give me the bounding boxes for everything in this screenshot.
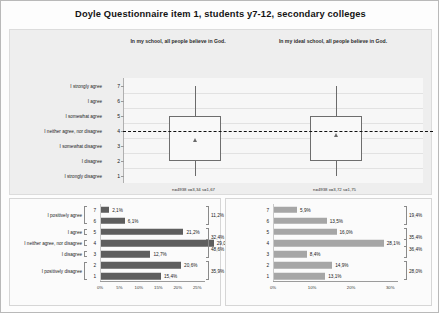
bar-category-3: 3 — [88, 252, 96, 257]
bar-right-x-axis — [273, 281, 398, 282]
boxplot-y-label-1: I strongly disagree — [0, 173, 102, 178]
x-tick-4: 20% — [173, 285, 182, 290]
reference-line-neutral — [123, 131, 433, 132]
boxplot-mean-marker — [193, 138, 197, 142]
group-bracket-2 — [404, 239, 407, 258]
x-tick-2: 10% — [135, 285, 144, 290]
boxplot-stats-2: n=4938 x=3,72 s=1,75 — [313, 187, 356, 192]
bar-left-plot-area — [100, 204, 205, 282]
bar-1 — [274, 273, 325, 280]
boxplot-tick — [121, 161, 124, 162]
boxplot-gridline — [124, 108, 423, 109]
bar-value-6: 13,5% — [330, 218, 343, 223]
bar-value-5: 16,0% — [340, 229, 353, 234]
bar-value-2: 20,6% — [184, 263, 197, 268]
boxplot-subtitle-right: In my ideal school, all people believe i… — [253, 38, 413, 44]
bar-7 — [274, 206, 297, 213]
bar-3 — [274, 251, 307, 258]
row-label-3: I disagree — [62, 252, 82, 257]
group-total-1: 35,4% — [409, 235, 422, 240]
bar-value-7: 5,9% — [300, 207, 311, 212]
x-tick-2: 20% — [347, 285, 356, 290]
x-tick-1: 5% — [116, 285, 122, 290]
boxplot-y-label-3: I somewhat disagree — [0, 143, 102, 148]
bar-5 — [101, 229, 183, 236]
boxplot-mean-marker — [334, 133, 338, 137]
bar-value-5: 21,2% — [186, 229, 199, 234]
boxplot-y-label-5: I somewhat agree — [0, 113, 102, 118]
boxplot-y-value-4: 4 — [112, 128, 120, 134]
boxplot-subtitle-left: In my school, all people believe in God. — [103, 38, 253, 44]
bar-category-7: 7 — [88, 207, 96, 212]
bar-left-x-axis — [100, 281, 205, 282]
bar-category-4: 4 — [261, 241, 269, 246]
x-tick-3: 30% — [386, 285, 395, 290]
boxplot-gridline — [124, 168, 423, 169]
bar-2 — [274, 262, 332, 269]
bar-category-6: 6 — [88, 218, 96, 223]
boxplot-tick — [121, 86, 124, 87]
boxplot-tick — [121, 176, 124, 177]
bar-2 — [101, 262, 181, 269]
bar-category-1: 1 — [88, 274, 96, 279]
bar-category-6: 6 — [261, 218, 269, 223]
boxplot-tick — [121, 146, 124, 147]
bar-right-plot-area — [273, 204, 398, 282]
x-tick-0: 0% — [97, 285, 103, 290]
bar-category-7: 7 — [261, 207, 269, 212]
bar-category-1: 1 — [261, 274, 269, 279]
bar-value-1: 13,1% — [328, 274, 341, 279]
boxplot-tick — [121, 101, 124, 102]
bar-category-4: 4 — [88, 241, 96, 246]
row-label-2: I neither agree, nor disagree — [24, 241, 82, 246]
group-bracket-2 — [206, 239, 209, 258]
bar-value-6: 6,1% — [128, 218, 139, 223]
bar-value-3: 8,4% — [310, 252, 321, 257]
group-total-0: 11,2% — [211, 213, 224, 218]
bar-6 — [101, 217, 125, 224]
group-total-0: 19,4% — [409, 213, 422, 218]
boxplot-panel: In my school, all people believe in God.… — [9, 29, 432, 195]
row-label-0: I positively agree — [48, 213, 82, 218]
bar-value-3: 12,7% — [153, 252, 166, 257]
row-bracket-1 — [84, 229, 87, 236]
group-total-2: 36,4% — [409, 246, 422, 251]
group-total-3: 28,0% — [409, 268, 422, 273]
bar-value-4: 28,1% — [387, 241, 400, 246]
boxplot-gridline — [124, 93, 423, 94]
bar-3 — [101, 251, 150, 258]
boxplot-y-value-2: 2 — [112, 158, 120, 164]
x-tick-0: 0% — [270, 285, 276, 290]
boxplot-y-label-7: I strongly agree — [0, 83, 102, 88]
x-tick-1: 10% — [308, 285, 317, 290]
bar-chart-right: 5,9%713,5%616,0%528,1%48,4%314,9%213,1%1… — [225, 198, 432, 306]
boxplot-y-label-4: I neither agree, nor disagree — [0, 128, 102, 133]
group-bracket-3 — [404, 261, 407, 280]
bar-chart-left: 2,1%76,1%621,2%529,0%412,7%320,6%215,4%1… — [9, 198, 221, 306]
row-label-1: I agree — [68, 229, 82, 234]
boxplot-y-value-1: 1 — [112, 173, 120, 179]
bar-value-2: 14,9% — [335, 263, 348, 268]
row-bracket-4 — [84, 262, 87, 280]
boxplot-y-value-6: 6 — [112, 98, 120, 104]
group-bracket-3 — [206, 261, 209, 280]
group-total-1: 32,4% — [211, 235, 224, 240]
boxplot-tick — [121, 116, 124, 117]
bar-7 — [101, 206, 109, 213]
bar-category-2: 2 — [261, 263, 269, 268]
x-tick-5: 25% — [193, 285, 202, 290]
bar-category-5: 5 — [261, 229, 269, 234]
x-tick-3: 15% — [154, 285, 163, 290]
bar-6 — [274, 217, 327, 224]
bar-5 — [274, 229, 337, 236]
row-bracket-0 — [84, 206, 87, 224]
row-bracket-3 — [84, 251, 87, 258]
bar-category-5: 5 — [88, 229, 96, 234]
bar-category-2: 2 — [88, 263, 96, 268]
bar-4 — [274, 240, 384, 247]
boxplot-y-label-2: I disagree — [0, 158, 102, 163]
boxplot-y-value-5: 5 — [112, 113, 120, 119]
bar-4 — [101, 240, 214, 247]
row-label-4: I positively disagree — [42, 268, 82, 273]
group-total-2: 48,6% — [211, 246, 224, 251]
